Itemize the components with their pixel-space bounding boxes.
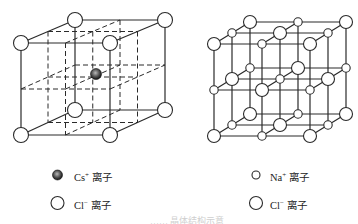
ion-symbol: Cl — [74, 200, 84, 211]
ion-charge: + — [282, 171, 286, 179]
legend-cs-ion: Cs+ 离子 — [74, 169, 112, 184]
cl-ion-legend-icon-left — [51, 197, 64, 210]
ion-charge: + — [85, 171, 89, 179]
ion-symbol: Na — [270, 172, 282, 183]
cl-ion-legend-icon-right — [250, 197, 263, 210]
cs-ion-center — [91, 69, 102, 80]
ion-label: 离子 — [91, 200, 111, 211]
ion-charge: − — [84, 199, 88, 207]
crystal-structure-diagram — [0, 0, 358, 224]
ion-label: 离子 — [289, 172, 309, 183]
ion-label: 离子 — [287, 200, 307, 211]
nacl-ions — [208, 16, 353, 143]
figure-caption: …… 晶体结构示意 — [150, 214, 224, 224]
legend-na-ion: Na+ 离子 — [270, 169, 309, 184]
legend-cl-ion-left: Cl− 离子 — [74, 197, 111, 212]
na-ion-legend-icon — [252, 171, 260, 179]
ion-symbol: Cs — [74, 172, 85, 183]
ion-charge: − — [280, 199, 284, 207]
legend-cl-ion-right: Cl− 离子 — [270, 197, 307, 212]
cs-ion-legend-icon — [53, 170, 63, 180]
ion-symbol: Cl — [270, 200, 280, 211]
ion-label: 离子 — [92, 172, 112, 183]
